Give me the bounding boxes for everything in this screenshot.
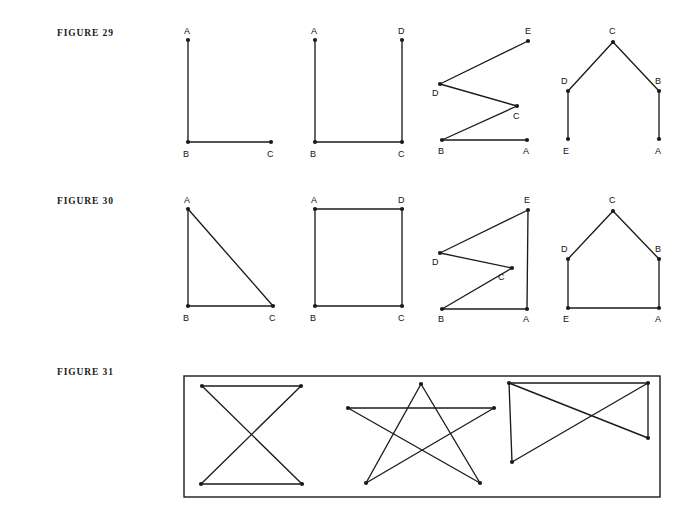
roof-path-e-d-c-b-a-vertex-label-c: C: [609, 26, 616, 36]
closed-square-a-b-c-d-vertex-d: [400, 207, 404, 211]
pentagram-star-graph-edge-bl-r: [366, 408, 494, 483]
closed-house-e-d-c-b-a-vertex-label-b: B: [655, 244, 661, 254]
closed-triangle-a-b-c-vertex-a: [186, 207, 190, 211]
closed-zigzag-e-d-c-b-a-edge-d-c: [440, 253, 512, 268]
zigzag-path-e-d-c-b-a-vertex-label-e: E: [525, 26, 531, 36]
closed-house-e-d-c-b-a-edge-d-c: [568, 211, 613, 259]
zigzag-path-e-d-c-b-a-vertex-d: [438, 82, 442, 86]
pentagram-star-graph-edge-t-bl: [366, 384, 421, 483]
closed-zigzag-e-d-c-b-a-edge-c-b: [442, 268, 512, 309]
closed-house-e-d-c-b-a-vertex-label-e: E: [563, 314, 569, 324]
closed-square-a-b-c-d-vertex-c: [400, 304, 404, 308]
closed-house-e-d-c-b-a-vertex-e: [566, 306, 570, 310]
closed-triangle-a-b-c-vertex-c: [271, 304, 275, 308]
closed-zigzag-e-d-c-b-a-vertex-e: [526, 208, 530, 212]
closed-house-e-d-c-b-a-vertex-c: [611, 209, 615, 213]
closed-house-e-d-c-b-a-edge-c-b: [613, 211, 659, 259]
closed-square-a-b-c-d-vertex-label-b: B: [310, 313, 316, 323]
closed-house-e-d-c-b-a-vertex-label-d: D: [561, 244, 568, 254]
closed-triangle-a-b-c-vertex-label-a: A: [184, 195, 190, 205]
open-square-path-a-b-c-d-vertex-a: [313, 38, 317, 42]
pentagram-star-graph-vertex-bl: [364, 481, 368, 485]
zigzag-path-e-d-c-b-a-vertex-label-b: B: [438, 146, 444, 156]
zigzag-path-e-d-c-b-a-edge-d-c: [440, 84, 517, 106]
pentagram-star-graph-vertex-r: [492, 406, 496, 410]
bowtie-graph-edge-tr-bl: [201, 386, 301, 484]
bowtie-graph-edge-tl-br: [202, 386, 302, 484]
zigzag-path-e-d-c-b-a-vertex-e: [526, 39, 530, 43]
closed-house-e-d-c-b-a-vertex-d: [566, 257, 570, 261]
closed-zigzag-e-d-c-b-a-vertex-d: [438, 251, 442, 255]
roof-path-e-d-c-b-a-vertex-c: [611, 40, 615, 44]
closed-zigzag-e-d-c-b-a-vertex-label-d: D: [432, 257, 439, 267]
closed-triangle-a-b-c-vertex-label-b: B: [183, 313, 189, 323]
zigzag-path-e-d-c-b-a-vertex-b: [440, 138, 444, 142]
roof-path-e-d-c-b-a-edge-c-b: [613, 42, 659, 91]
closed-zigzag-e-d-c-b-a-vertex-b: [440, 307, 444, 311]
closed-zigzag-e-d-c-b-a-edge-a-e: [527, 210, 528, 309]
roof-path-e-d-c-b-a-vertex-a: [657, 137, 661, 141]
open-square-path-a-b-c-d-vertex-label-c: C: [398, 149, 405, 159]
closed-triangle-a-b-c-edge-c-a: [188, 209, 273, 306]
fig30-panel-1: ABC: [183, 195, 276, 323]
closed-house-e-d-c-b-a-vertex-label-c: C: [609, 195, 616, 205]
bowtie-graph-vertex-tr: [299, 384, 303, 388]
right-angle-path-a-b-c-vertex-label-a: A: [184, 26, 190, 36]
closed-zigzag-e-d-c-b-a-vertex-c: [510, 266, 514, 270]
figure-31-label: FIGURE 31: [57, 367, 114, 377]
roof-path-e-d-c-b-a-vertex-label-d: D: [561, 76, 568, 86]
graph-diagram-canvas: ABCABCDEDCBACDBEAABCABCDEDCBACDBEA: [0, 0, 691, 527]
figure-31-enclosing-box: [184, 376, 660, 497]
fig31-panel-3: [507, 381, 650, 464]
open-square-path-a-b-c-d-vertex-d: [400, 38, 404, 42]
closed-triangle-a-b-c-vertex-label-c: C: [269, 313, 276, 323]
zigzag-path-e-d-c-b-a-edge-c-b: [442, 106, 517, 140]
quadrilateral-with-crossing-diagonals-edge-tl-rm: [509, 383, 648, 438]
closed-square-a-b-c-d-vertex-label-c: C: [398, 313, 405, 323]
roof-path-e-d-c-b-a-vertex-label-b: B: [655, 76, 661, 86]
fig30-panel-3: EDCBA: [432, 195, 530, 324]
fig29-panel-4: CDBEA: [561, 26, 661, 156]
open-square-path-a-b-c-d-vertex-c: [400, 140, 404, 144]
open-square-path-a-b-c-d-vertex-label-a: A: [311, 26, 317, 36]
zigzag-path-e-d-c-b-a-vertex-c: [515, 104, 519, 108]
closed-square-a-b-c-d-vertex-label-d: D: [398, 195, 405, 205]
right-angle-path-a-b-c-vertex-label-b: B: [183, 149, 189, 159]
zigzag-path-e-d-c-b-a-vertex-label-a: A: [523, 146, 529, 156]
roof-path-e-d-c-b-a-vertex-label-e: E: [563, 146, 569, 156]
fig31-panel-1: [199, 384, 304, 486]
roof-path-e-d-c-b-a-vertex-e: [566, 137, 570, 141]
pentagram-star-graph-vertex-t: [419, 382, 423, 386]
quadrilateral-with-crossing-diagonals-vertex-tr: [646, 381, 650, 385]
closed-zigzag-e-d-c-b-a-vertex-label-e: E: [524, 195, 530, 205]
closed-square-a-b-c-d-vertex-label-a: A: [311, 195, 317, 205]
closed-square-a-b-c-d-vertex-a: [313, 207, 317, 211]
figure-30-group: ABCABCDEDCBACDBEA: [183, 195, 661, 324]
closed-triangle-a-b-c-vertex-b: [186, 304, 190, 308]
zigzag-path-e-d-c-b-a-vertex-label-d: D: [432, 88, 439, 98]
quadrilateral-with-crossing-diagonals-edge-tl-bl: [509, 383, 512, 462]
pentagram-star-graph-edge-l-br: [348, 408, 480, 483]
open-square-path-a-b-c-d-vertex-label-d: D: [398, 26, 405, 36]
bowtie-graph-vertex-tl: [200, 384, 204, 388]
quadrilateral-with-crossing-diagonals-vertex-rm: [646, 436, 650, 440]
bowtie-graph-vertex-br: [300, 482, 304, 486]
pentagram-star-graph-vertex-l: [346, 406, 350, 410]
fig30-panel-2: ABCD: [310, 195, 405, 323]
pentagram-star-graph-vertex-br: [478, 481, 482, 485]
fig31-panel-2: [346, 382, 496, 485]
closed-zigzag-e-d-c-b-a-vertex-a: [525, 307, 529, 311]
closed-square-a-b-c-d-vertex-b: [313, 304, 317, 308]
closed-house-e-d-c-b-a-vertex-b: [657, 257, 661, 261]
pentagram-star-graph-edge-br-t: [421, 384, 480, 483]
figure-29-group: ABCABCDEDCBACDBEA: [183, 26, 661, 159]
open-square-path-a-b-c-d-vertex-label-b: B: [310, 149, 316, 159]
quadrilateral-with-crossing-diagonals-vertex-tl: [507, 381, 511, 385]
quadrilateral-with-crossing-diagonals-edge-tr-bl: [512, 383, 648, 462]
roof-path-e-d-c-b-a-vertex-b: [657, 89, 661, 93]
right-angle-path-a-b-c-vertex-b: [186, 140, 190, 144]
zigzag-path-e-d-c-b-a-vertex-label-c: C: [513, 111, 520, 121]
roof-path-e-d-c-b-a-vertex-d: [566, 89, 570, 93]
closed-zigzag-e-d-c-b-a-vertex-label-b: B: [438, 314, 444, 324]
figure-sheet: FIGURE 29 FIGURE 30 FIGURE 31 ABCABCDEDC…: [0, 0, 691, 527]
